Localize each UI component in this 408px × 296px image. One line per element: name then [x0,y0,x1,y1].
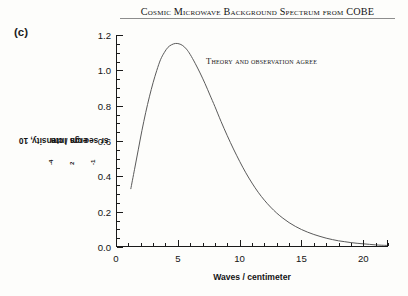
x-axis-major-tick [240,240,241,246]
y-axis-minor-tick [117,132,120,133]
x-axis-minor-tick [388,243,389,246]
y-axis-minor-tick [117,168,120,169]
x-axis-minor-tick [190,243,191,246]
y-axis-minor-tick [117,44,120,45]
y-axis-tick-label: 0.6 [98,136,111,147]
spectrum-curve-svg [116,35,388,247]
y-axis-title: Intensity, 10-4 ergs / cm2 sr sec cm-1 [62,35,76,247]
blackbody-spectrum-curve [131,43,387,245]
y-axis-minor-tick [117,88,120,89]
x-axis-title: Waves / centimeter [116,272,388,282]
x-axis-minor-tick [376,243,377,246]
y-axis-tick-label: 0.8 [98,100,111,111]
x-axis-minor-tick [264,243,265,246]
x-axis-tick-label: 5 [175,253,180,264]
panel-label: (c) [14,26,28,38]
y-axis-minor-tick [117,150,120,151]
y-axis-minor-tick [117,159,120,160]
y-axis-exponent-two: 2 [69,162,75,165]
y-axis-tick-label: 0.2 [98,206,111,217]
x-axis-major-tick [363,240,364,246]
x-axis-tick-label: 20 [358,253,369,264]
y-axis-major-tick [117,70,123,71]
x-axis-minor-tick [351,243,352,246]
y-axis-tick-label: 0.0 [98,242,111,253]
x-axis-minor-tick [252,243,253,246]
x-axis-minor-tick [339,243,340,246]
y-axis-exponent-minus-one: -1 [89,160,95,165]
x-axis-minor-tick [141,243,142,246]
x-axis-tick-label: 15 [296,253,307,264]
y-axis-minor-tick [117,185,120,186]
y-axis-minor-tick [117,115,120,116]
x-axis-minor-tick [203,243,204,246]
figure-panel: (c) Cosmic Microwave Background Spectrum… [0,0,408,296]
y-axis-minor-tick [117,229,120,230]
y-axis-minor-tick [117,203,120,204]
y-axis-major-tick [117,141,123,142]
y-axis-minor-tick [117,79,120,80]
y-axis-major-tick [117,106,123,107]
x-axis-tick-label: 0 [113,253,118,264]
plot-area: Theory and observation agree 0.00.20.40.… [116,35,388,247]
x-axis-minor-tick [165,243,166,246]
y-axis-minor-tick [117,123,120,124]
x-axis-tick-label: 10 [234,253,245,264]
x-axis-minor-tick [326,243,327,246]
y-axis-exponent-minus-four: -4 [48,160,54,165]
chart-title: Cosmic Microwave Background Spectrum fro… [120,6,395,17]
plot-annotation: Theory and observation agree [206,56,317,66]
x-axis-minor-tick [227,243,228,246]
y-axis-major-tick [117,212,123,213]
x-axis-major-tick [116,240,117,246]
y-axis-minor-tick [117,238,120,239]
y-axis-title-text: Intensity, 10-4 ergs / cm2 sr sec cm-1 [38,117,100,165]
x-axis-end-tick [387,240,388,246]
x-axis-line [116,246,388,247]
y-axis-tick-label: 1.0 [98,65,111,76]
x-axis-minor-tick [215,243,216,246]
y-axis-minor-tick [117,62,120,63]
y-axis-minor-tick [117,221,120,222]
x-axis-major-tick [301,240,302,246]
x-axis-minor-tick [153,243,154,246]
y-axis-major-tick [117,35,123,36]
y-axis-major-tick [117,247,123,248]
y-axis-minor-tick [117,97,120,98]
title-block: Cosmic Microwave Background Spectrum fro… [120,6,395,19]
x-axis-minor-tick [128,243,129,246]
y-axis-minor-tick [117,53,120,54]
y-axis-tick-label: 1.2 [98,30,111,41]
y-axis-major-tick [117,176,123,177]
x-axis-major-tick [178,240,179,246]
x-axis-minor-tick [314,243,315,246]
y-axis-tick-label: 0.4 [98,171,111,182]
title-underline-rule [120,18,395,19]
y-axis-minor-tick [117,194,120,195]
x-axis-minor-tick [289,243,290,246]
x-axis-minor-tick [277,243,278,246]
